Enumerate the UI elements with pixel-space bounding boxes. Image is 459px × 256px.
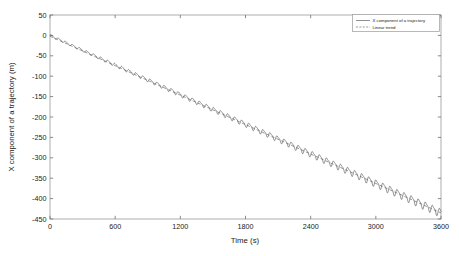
x-tick-label: 1800 <box>238 222 254 231</box>
y-tick-label: -400 <box>32 194 46 203</box>
y-axis-title: X component of a trajectory (m) <box>7 62 16 172</box>
y-tick-label: -200 <box>32 113 46 122</box>
trajectory-line-chart: 500-50-100-150-200-250-300-350-400-450 0… <box>0 0 459 256</box>
x-tick-label: 0 <box>48 222 52 231</box>
figure-canvas: 500-50-100-150-200-250-300-350-400-450 0… <box>0 0 459 256</box>
y-tick-label: -50 <box>36 51 46 60</box>
x-tick-label: 3000 <box>368 222 384 231</box>
x-tick-label: 3600 <box>433 222 449 231</box>
y-tick-label: -300 <box>32 153 46 162</box>
x-axis-title: Time (s) <box>231 236 260 245</box>
y-tick-label: -250 <box>32 133 46 142</box>
y-tick-label: 0 <box>43 31 47 40</box>
x-tick-label: 2400 <box>303 222 319 231</box>
x-tick-label: 1200 <box>172 222 188 231</box>
chart-background <box>0 0 459 256</box>
y-tick-label: -100 <box>32 72 46 81</box>
legend-label-trajectory: X component of a trajectory <box>373 18 426 23</box>
y-tick-label: 50 <box>39 11 47 20</box>
chart-legend[interactable]: X component of a trajectory Linear trend <box>353 15 440 32</box>
y-tick-label: -350 <box>32 174 46 183</box>
y-tick-label: -150 <box>32 92 46 101</box>
legend-label-linear-trend: Linear trend <box>373 25 397 30</box>
x-tick-label: 600 <box>109 222 121 231</box>
y-tick-label: -450 <box>32 215 46 224</box>
